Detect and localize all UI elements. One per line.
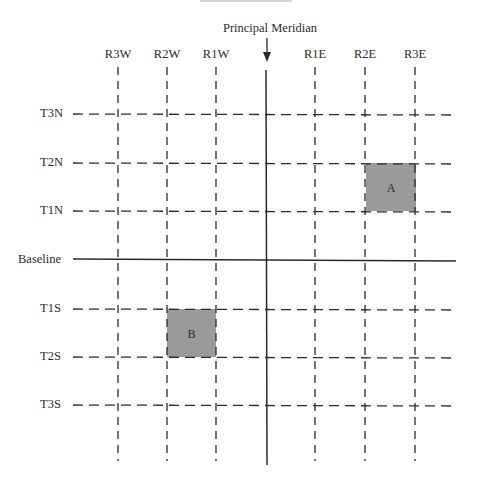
range-label: R1W bbox=[203, 47, 229, 61]
down-arrow-icon bbox=[263, 38, 271, 62]
township-range-diagram: Principal Meridian Baseline R3WR2WR1WR1E… bbox=[0, 0, 480, 485]
township-line bbox=[73, 309, 456, 310]
baseline-line bbox=[73, 259, 456, 261]
principal-meridian-line bbox=[266, 70, 267, 465]
parcel-label: B bbox=[187, 327, 195, 341]
range-label: R2E bbox=[354, 47, 376, 61]
range-label: R3E bbox=[404, 47, 426, 61]
range-label: R1E bbox=[304, 47, 326, 61]
principal-meridian-label: Principal Meridian bbox=[223, 21, 317, 35]
township-label: T3N bbox=[40, 106, 63, 120]
township-label: T1N bbox=[40, 203, 63, 217]
range-label: R3W bbox=[105, 47, 131, 61]
township-line bbox=[73, 211, 456, 212]
range-label: R2W bbox=[154, 47, 180, 61]
township-label: T2N bbox=[40, 155, 63, 169]
township-label: T2S bbox=[40, 349, 61, 363]
township-label: T3S bbox=[40, 397, 61, 411]
township-line bbox=[73, 405, 456, 406]
township-line bbox=[73, 114, 456, 115]
parcel-label: A bbox=[387, 181, 396, 195]
township-label: T1S bbox=[40, 301, 61, 315]
survey-grid bbox=[0, 0, 480, 485]
baseline-label: Baseline bbox=[18, 252, 61, 266]
township-line bbox=[73, 357, 456, 358]
